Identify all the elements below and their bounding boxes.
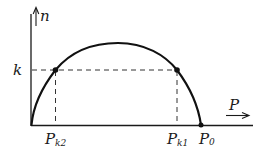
point-pk1 [174,67,180,73]
level-k-label: k [13,61,22,79]
svg-text:k1: k1 [177,138,188,148]
label-p0: P 0 [198,130,215,148]
y-direction-arrow-icon [33,8,39,27]
diagram-canvas: n k P k2 P k1 P 0 P [0,0,262,155]
point-pk2 [53,67,59,73]
label-pk1: P k1 [166,130,188,148]
point-p0 [199,123,204,128]
svg-text:k2: k2 [55,138,66,148]
x-axis-label: P [228,96,240,114]
y-axis-label: n [40,7,50,25]
label-pk2: P k2 [44,130,66,148]
svg-text:0: 0 [209,137,215,147]
n-p-curve [32,43,202,125]
